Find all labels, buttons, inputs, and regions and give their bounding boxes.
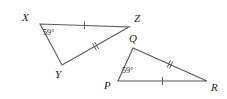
vertex-label-q: Q xyxy=(129,33,137,44)
angle-measure-x: 59° xyxy=(43,29,54,37)
vertex-label-r: R xyxy=(211,82,218,93)
angle-measure-p: 59° xyxy=(122,67,133,75)
congruent-triangles-diagram xyxy=(0,0,227,99)
vertex-label-y: Y xyxy=(55,69,61,80)
vertex-label-p: P xyxy=(104,80,111,91)
vertex-label-z: Z xyxy=(134,13,140,24)
triangle-pqr xyxy=(118,48,207,81)
vertex-label-x: X xyxy=(22,12,29,23)
geometry-figure-canvas: XYZ59°PQR59° xyxy=(0,0,227,99)
